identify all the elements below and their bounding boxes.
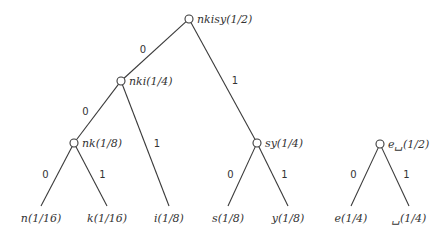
leaf-label: y(1/8) <box>271 212 305 225</box>
internal-node-circle <box>70 139 78 147</box>
edge-bit-label: 1 <box>99 169 105 180</box>
leaf-label: i(1/8) <box>154 212 184 225</box>
edge-bit-label: 1 <box>154 138 160 149</box>
edge-bit-label: 0 <box>227 169 233 180</box>
edge-bit-label: 0 <box>350 169 356 180</box>
leaf-label: e(1/4) <box>335 212 368 225</box>
internal-node-circle <box>117 77 125 85</box>
internal-node-label: nk(1/8) <box>82 137 122 150</box>
leaf-label: n(1/16) <box>21 212 61 225</box>
tree-edge <box>191 23 257 143</box>
huffman-tree-diagram: 0101010101nkisy(1/2)nki(1/4)nk(1/8)sy(1/… <box>0 0 446 241</box>
edge-bit-label: 1 <box>403 169 409 180</box>
edge-bit-label: 0 <box>42 169 48 180</box>
edge-bit-label: 1 <box>281 169 287 180</box>
internal-node-label: nkisy(1/2) <box>197 13 252 26</box>
internal-node-label: nki(1/4) <box>129 75 173 88</box>
edge-bit-label: 0 <box>82 106 88 117</box>
tree-edge <box>122 85 169 206</box>
leaf-label: k(1/16) <box>87 212 127 225</box>
internal-node-circle <box>376 140 384 148</box>
leaf-label: s(1/8) <box>212 212 244 225</box>
edge-bit-label: 0 <box>140 44 146 55</box>
internal-node-circle <box>185 15 193 23</box>
tree-edge <box>121 22 186 81</box>
internal-node-label: e␣(1/2) <box>388 138 429 151</box>
internal-node-circle <box>253 139 261 147</box>
leaf-label: ␣(1/4) <box>392 212 427 225</box>
tree-edge <box>74 84 119 143</box>
internal-node-label: sy(1/4) <box>265 137 303 150</box>
edge-bit-label: 1 <box>232 75 238 86</box>
